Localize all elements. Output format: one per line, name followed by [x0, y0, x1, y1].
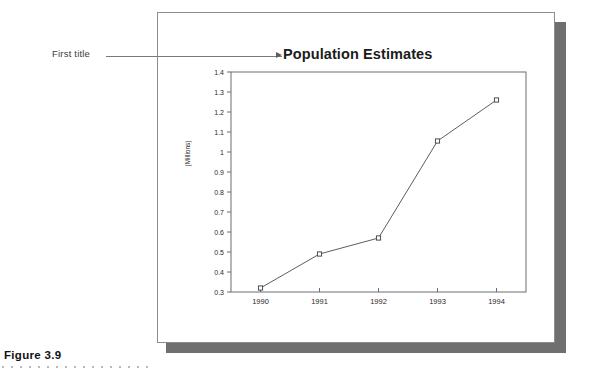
- x-axis-tick-label: 1993: [429, 297, 446, 306]
- data-point-marker[interactable]: [317, 252, 321, 256]
- data-point-marker[interactable]: [258, 286, 262, 290]
- y-axis-tick-label: 0.5: [214, 249, 224, 256]
- arrow-right-icon: [276, 52, 282, 58]
- y-axis-tick-label: 1.1: [214, 129, 224, 136]
- line-chart: 0.30.40.50.60.70.80.911.11.21.31.4199019…: [178, 64, 538, 314]
- y-axis-tick-label: 0.9: [214, 169, 224, 176]
- figure-caption: Figure 3.9: [4, 349, 61, 361]
- y-axis-tick-label: 0.8: [214, 189, 224, 196]
- y-axis-tick-label: 1.4: [214, 69, 224, 76]
- x-axis-tick-label: 1994: [488, 297, 505, 306]
- x-axis-tick-label: 1991: [311, 297, 328, 306]
- chart-title: Population Estimates: [283, 46, 432, 62]
- y-axis-tick-label: 1.3: [214, 89, 224, 96]
- x-axis-tick-label: 1992: [370, 297, 387, 306]
- caption-dotted-rule: [2, 366, 154, 368]
- data-point-marker[interactable]: [435, 139, 439, 143]
- y-axis-tick-label: 0.6: [214, 229, 224, 236]
- plot-background: [231, 72, 526, 292]
- data-point-marker[interactable]: [494, 98, 498, 102]
- callout-label-first-title: First title: [52, 48, 90, 59]
- x-axis-tick-label: 1990: [252, 297, 269, 306]
- screenshot-root: First title Population Estimates (Millio…: [0, 0, 590, 378]
- data-point-marker[interactable]: [376, 236, 380, 240]
- y-axis-tick-label: 0.7: [214, 209, 224, 216]
- callout-leader-line: [106, 56, 282, 57]
- y-axis-tick-label: 0.3: [214, 289, 224, 296]
- y-axis-tick-label: 1: [220, 149, 224, 156]
- y-axis-tick-label: 1.2: [214, 109, 224, 116]
- chart-canvas: 0.30.40.50.60.70.80.911.11.21.31.4199019…: [178, 64, 538, 314]
- y-axis-tick-label: 0.4: [214, 269, 224, 276]
